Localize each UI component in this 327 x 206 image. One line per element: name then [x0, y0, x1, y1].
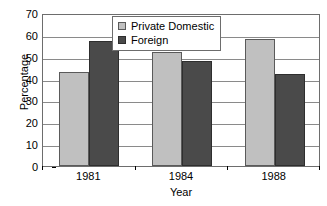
bar-private-domestic-1988: [245, 39, 275, 166]
x-axis-title: Year: [42, 186, 320, 198]
y-axis-tick-label: 50: [14, 52, 38, 64]
y-axis-tick-labels: 010203040506070: [14, 8, 38, 174]
bar-foreign-1988: [275, 74, 305, 166]
x-axis-tick-mark: [227, 166, 228, 170]
y-axis-tick-label: 20: [14, 117, 38, 129]
x-axis-tick-mark: [42, 166, 43, 170]
legend-swatch-foreign: [118, 36, 126, 44]
legend-label: Private Domestic: [131, 20, 214, 32]
x-axis-tick-labels: 198119841988: [42, 170, 320, 186]
bar-private-domestic-1984: [152, 52, 182, 166]
x-axis-tick-mark: [135, 166, 136, 170]
x-axis-tick-label: 1988: [261, 170, 285, 182]
y-axis-tick-label: 40: [14, 74, 38, 86]
bar-foreign-1984: [182, 61, 212, 166]
y-axis-tick-label: 10: [14, 139, 38, 151]
y-axis-tick-label: 60: [14, 30, 38, 42]
legend-label: Foreign: [131, 34, 168, 46]
bar-chart: Percentage 010203040506070 Private Domes…: [0, 0, 327, 206]
bar-group-1981: [59, 15, 119, 166]
bar-group-1988: [245, 15, 305, 166]
x-axis-tick-mark: [319, 166, 320, 170]
x-axis-tick-label: 1981: [76, 170, 100, 182]
y-axis-tick-label: 0: [14, 161, 38, 173]
x-axis-tick-label: 1984: [169, 170, 193, 182]
chart-legend: Private DomesticForeign: [112, 16, 221, 51]
bar-private-domestic-1981: [59, 72, 89, 166]
y-axis-tick-label: 30: [14, 95, 38, 107]
legend-entry: Private Domestic: [118, 19, 214, 33]
y-axis-tick-label: 70: [14, 8, 38, 20]
bar-foreign-1981: [89, 41, 119, 166]
legend-entry: Foreign: [118, 33, 214, 47]
legend-swatch-private-domestic: [118, 22, 126, 30]
y-axis-tick-mark: [52, 167, 56, 168]
